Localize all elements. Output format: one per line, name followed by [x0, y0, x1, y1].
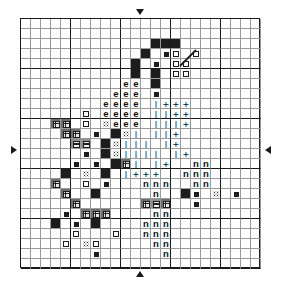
empty-cell[interactable]	[101, 239, 111, 249]
empty-cell[interactable]	[251, 159, 261, 169]
empty-cell[interactable]	[131, 249, 141, 259]
empty-cell[interactable]	[171, 249, 181, 259]
letter-e-cell[interactable]: e	[111, 89, 121, 99]
empty-cell[interactable]	[21, 209, 31, 219]
empty-cell[interactable]	[41, 259, 51, 269]
empty-cell[interactable]	[251, 189, 261, 199]
empty-cell[interactable]	[141, 39, 151, 49]
empty-cell[interactable]	[51, 59, 61, 69]
empty-cell[interactable]	[221, 99, 231, 109]
empty-cell[interactable]	[101, 29, 111, 39]
vertical-bar-cell[interactable]: |	[161, 139, 171, 149]
empty-cell[interactable]	[31, 259, 41, 269]
empty-cell[interactable]	[221, 219, 231, 229]
empty-cell[interactable]	[161, 189, 171, 199]
empty-cell[interactable]	[241, 89, 251, 99]
empty-cell[interactable]	[71, 239, 81, 249]
empty-cell[interactable]	[191, 99, 201, 109]
empty-cell[interactable]	[71, 109, 81, 119]
empty-cell[interactable]	[81, 79, 91, 89]
empty-cell[interactable]	[201, 149, 211, 159]
empty-cell[interactable]	[221, 39, 231, 49]
empty-cell[interactable]	[191, 39, 201, 49]
empty-cell[interactable]	[171, 19, 181, 29]
empty-cell[interactable]	[231, 249, 241, 259]
empty-cell[interactable]	[171, 79, 181, 89]
empty-cell[interactable]	[71, 79, 81, 89]
empty-cell[interactable]	[51, 109, 61, 119]
empty-cell[interactable]	[21, 109, 31, 119]
letter-n-cell[interactable]: n	[191, 169, 201, 179]
empty-cell[interactable]	[221, 189, 231, 199]
empty-cell[interactable]	[201, 69, 211, 79]
vertical-bar-cell[interactable]: |	[171, 119, 181, 129]
letter-n-cell[interactable]: n	[201, 169, 211, 179]
empty-cell[interactable]	[181, 259, 191, 269]
empty-cell[interactable]	[141, 209, 151, 219]
open-square-cell[interactable]	[81, 179, 91, 189]
empty-cell[interactable]	[131, 209, 141, 219]
empty-cell[interactable]	[101, 219, 111, 229]
letter-e-cell[interactable]: e	[111, 99, 121, 109]
empty-cell[interactable]	[71, 69, 81, 79]
letter-n-cell[interactable]: n	[151, 219, 161, 229]
empty-cell[interactable]	[151, 249, 161, 259]
empty-cell[interactable]	[91, 179, 101, 189]
empty-cell[interactable]	[41, 239, 51, 249]
empty-cell[interactable]	[101, 189, 111, 199]
empty-cell[interactable]	[121, 219, 131, 229]
empty-cell[interactable]	[141, 99, 151, 109]
empty-cell[interactable]	[221, 129, 231, 139]
empty-cell[interactable]	[221, 119, 231, 129]
letter-n-cell[interactable]: n	[161, 209, 171, 219]
empty-cell[interactable]	[231, 59, 241, 69]
empty-cell[interactable]	[21, 179, 31, 189]
empty-cell[interactable]	[81, 29, 91, 39]
empty-cell[interactable]	[121, 239, 131, 249]
letter-n-cell[interactable]: n	[151, 179, 161, 189]
filled-square-cell[interactable]	[91, 189, 101, 199]
empty-cell[interactable]	[81, 89, 91, 99]
empty-cell[interactable]	[211, 159, 221, 169]
empty-cell[interactable]	[251, 249, 261, 259]
empty-cell[interactable]	[231, 259, 241, 269]
letter-e-cell[interactable]: e	[121, 99, 131, 109]
empty-cell[interactable]	[131, 219, 141, 229]
vertical-bar-cell[interactable]: |	[151, 149, 161, 159]
empty-cell[interactable]	[191, 209, 201, 219]
empty-cell[interactable]	[101, 129, 111, 139]
empty-cell[interactable]	[71, 259, 81, 269]
empty-cell[interactable]	[91, 229, 101, 239]
empty-cell[interactable]	[21, 29, 31, 39]
vertical-bar-cell[interactable]: |	[131, 139, 141, 149]
dot-cell[interactable]	[191, 189, 201, 199]
empty-cell[interactable]	[221, 159, 231, 169]
empty-cell[interactable]	[21, 69, 31, 79]
empty-cell[interactable]	[201, 89, 211, 99]
empty-cell[interactable]	[41, 59, 51, 69]
empty-cell[interactable]	[201, 29, 211, 39]
empty-cell[interactable]	[81, 259, 91, 269]
empty-cell[interactable]	[251, 149, 261, 159]
stippled-cell[interactable]	[81, 239, 91, 249]
empty-cell[interactable]	[21, 129, 31, 139]
empty-cell[interactable]	[241, 179, 251, 189]
filled-square-cell[interactable]	[181, 189, 191, 199]
empty-cell[interactable]	[111, 239, 121, 249]
empty-cell[interactable]	[161, 29, 171, 39]
empty-cell[interactable]	[211, 29, 221, 39]
letter-n-cell[interactable]: n	[141, 179, 151, 189]
empty-cell[interactable]	[161, 259, 171, 269]
empty-cell[interactable]	[241, 29, 251, 39]
empty-cell[interactable]	[41, 149, 51, 159]
empty-cell[interactable]	[211, 139, 221, 149]
empty-cell[interactable]	[71, 49, 81, 59]
empty-cell[interactable]	[221, 199, 231, 209]
stippled-cell[interactable]	[121, 129, 131, 139]
filled-square-cell[interactable]	[141, 49, 151, 59]
letter-n-cell[interactable]: n	[201, 179, 211, 189]
empty-cell[interactable]	[81, 49, 91, 59]
empty-cell[interactable]	[171, 239, 181, 249]
empty-cell[interactable]	[121, 29, 131, 39]
plus-cell[interactable]: +	[151, 169, 161, 179]
